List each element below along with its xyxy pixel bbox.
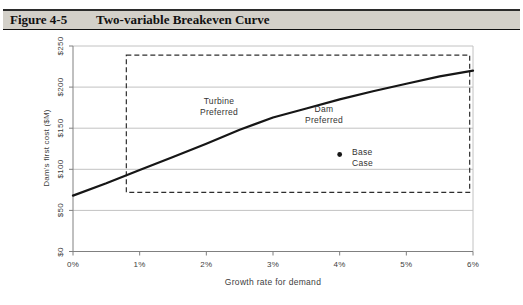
x-tick-label: 5% — [400, 260, 412, 269]
y-tick-label: $50 — [56, 203, 65, 217]
x-tick-label: 2% — [200, 260, 212, 269]
breakeven-curve-line — [73, 71, 473, 196]
x-tick-label: 0% — [67, 260, 79, 269]
y-tick-label: $150 — [56, 119, 65, 138]
x-tick-label: 6% — [467, 260, 479, 269]
y-tick-label: $250 — [56, 37, 65, 56]
y-tick-label: $0 — [56, 247, 65, 257]
x-tick-label: 3% — [267, 260, 279, 269]
y-tick-label: $200 — [56, 78, 65, 97]
y-axis-title: Dam's first cost ($M) — [42, 109, 51, 186]
base-case-point — [337, 152, 342, 157]
annotation-dam-preferred: Dam Preferred — [305, 104, 343, 126]
sensitivity-region-box — [126, 55, 469, 192]
figure-title: Two-variable Breakeven Curve — [96, 12, 270, 28]
y-tick-label: $100 — [56, 160, 65, 179]
annotation-base-case: Base Case — [352, 147, 373, 169]
breakeven-chart: 0%1%2%3%4%5%6% $0$50$100$150$200$250 Gro… — [0, 30, 523, 305]
x-tick-label: 1% — [134, 260, 146, 269]
annotation-turbine-preferred: Turbine Preferred — [200, 96, 238, 118]
figure-header: Figure 4-5 Two-variable Breakeven Curve — [3, 9, 520, 32]
x-axis-title: Growth rate for demand — [225, 277, 321, 287]
x-tick-label: 4% — [334, 260, 346, 269]
figure-number: Figure 4-5 — [10, 12, 67, 28]
